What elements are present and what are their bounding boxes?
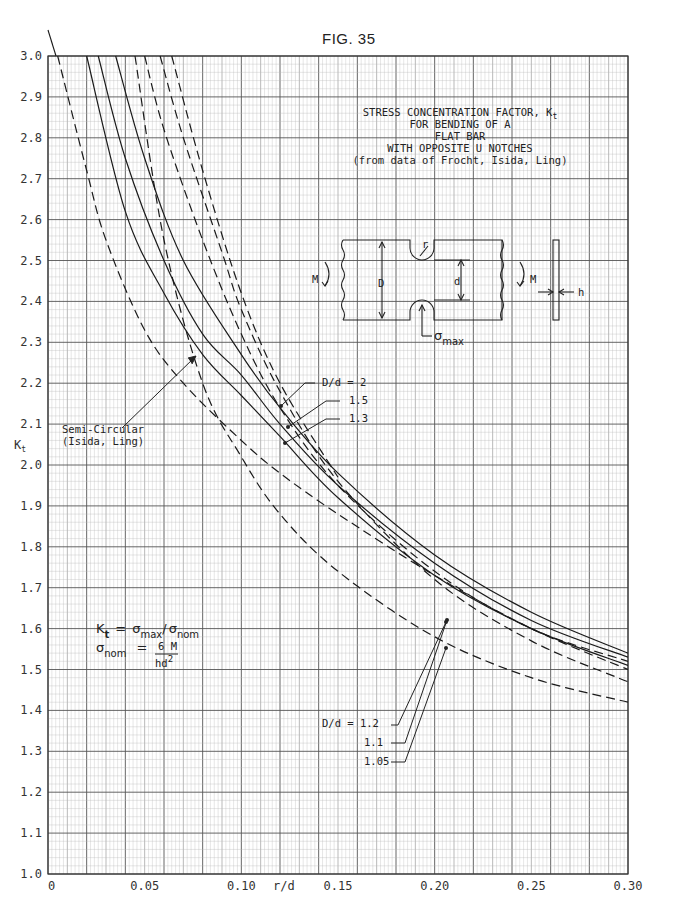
y-axis-label: Kt (14, 438, 26, 454)
annotation-dd-bottom-2: 1.05 (364, 755, 389, 767)
curve-d-d-2-dashed-companion- (172, 56, 338, 477)
y-tick-label: 2.1 (20, 417, 42, 431)
y-tick-label: 2.4 (20, 294, 42, 308)
y-tick-label: 2.8 (20, 131, 42, 145)
annotations: STRESS CONCENTRATION FACTOR, KtFOR BENDI… (62, 106, 584, 767)
x-tick-label: 0.10 (227, 879, 256, 893)
curve-d-d-1-05 (135, 56, 628, 702)
y-tick-label: 2.0 (20, 458, 42, 472)
y-tick-label: 1.8 (20, 540, 42, 554)
y-tick-label: 1.6 (20, 622, 42, 636)
formula-fraction-denominator: hd2 (155, 654, 173, 669)
x-tick-label: 0.30 (614, 879, 643, 893)
svg-text:FLAT BAR: FLAT BAR (435, 130, 486, 142)
x-tick-label: 0 (48, 879, 55, 893)
axes: 1.01.11.21.31.41.51.61.71.81.92.02.12.22… (14, 49, 642, 893)
x-axis-label: r/d (273, 879, 295, 893)
y-tick-label: 1.1 (20, 826, 42, 840)
formula-sigma-nom: σnom= (96, 640, 147, 659)
diagram-label-D: D (378, 277, 384, 289)
annotation-semi-circular-source: (Isida, Ling) (62, 435, 144, 447)
annotation-dd-bottom-0: D/d = 1.2 (322, 717, 379, 729)
diagram-label-M-right: M (530, 273, 536, 285)
grid (48, 56, 628, 874)
x-tick-label: 0.20 (420, 879, 449, 893)
y-tick-label: 1.4 (20, 703, 42, 717)
annotation-semi-circular: Semi-Circular (62, 423, 144, 435)
curve-semi-circular-isida-ling- (58, 56, 628, 670)
svg-text:FOR BENDING OF A: FOR BENDING OF A (409, 118, 511, 130)
specimen-diagram (322, 240, 574, 336)
y-tick-label: 1.3 (20, 744, 42, 758)
diagram-label-h: h (578, 286, 584, 298)
x-tick-label: 0.25 (517, 879, 546, 893)
curve-d-d-1-5 (98, 56, 628, 657)
y-tick-label: 1.7 (20, 581, 42, 595)
diagram-label-d: d (454, 275, 460, 287)
y-tick-label: 2.6 (20, 213, 42, 227)
y-tick-label: 2.2 (20, 376, 42, 390)
annotation-dd-top-0: D/d = 2 (322, 376, 366, 388)
x-tick-label: 0.05 (130, 879, 159, 893)
formula-kt: Kt=σmax/σnom (96, 621, 199, 640)
y-tick-label: 1.5 (20, 663, 42, 677)
stress-concentration-chart: 1.01.11.21.31.41.51.61.71.81.92.02.12.22… (0, 0, 676, 910)
y-tick-label: 2.9 (20, 90, 42, 104)
y-tick-label: 1.9 (20, 499, 42, 513)
svg-text:(from data of Frocht, Isida, L: (from data of Frocht, Isida, Ling) (353, 154, 568, 166)
annotation-dd-top-2: 1.3 (349, 412, 368, 424)
svg-text:WITH OPPOSITE U NOTCHES: WITH OPPOSITE U NOTCHES (387, 142, 532, 154)
y-tick-label: 3.0 (20, 49, 42, 63)
x-tick-label: 0.15 (324, 879, 353, 893)
annotation-dd-top-1: 1.5 (349, 394, 368, 406)
y-tick-label: 1.0 (20, 867, 42, 881)
diagram-label-M-left: M (312, 273, 318, 285)
y-tick-label: 2.3 (20, 335, 42, 349)
curve-d-d-2 (116, 56, 628, 653)
annotation-dd-bottom-1: 1.1 (364, 736, 383, 748)
diagram-label-r: r (422, 238, 428, 250)
y-tick-label: 2.5 (20, 254, 42, 268)
y-tick-label: 1.2 (20, 785, 42, 799)
y-tick-label: 2.7 (20, 172, 42, 186)
formula-fraction-numerator: 6 M (158, 640, 177, 652)
